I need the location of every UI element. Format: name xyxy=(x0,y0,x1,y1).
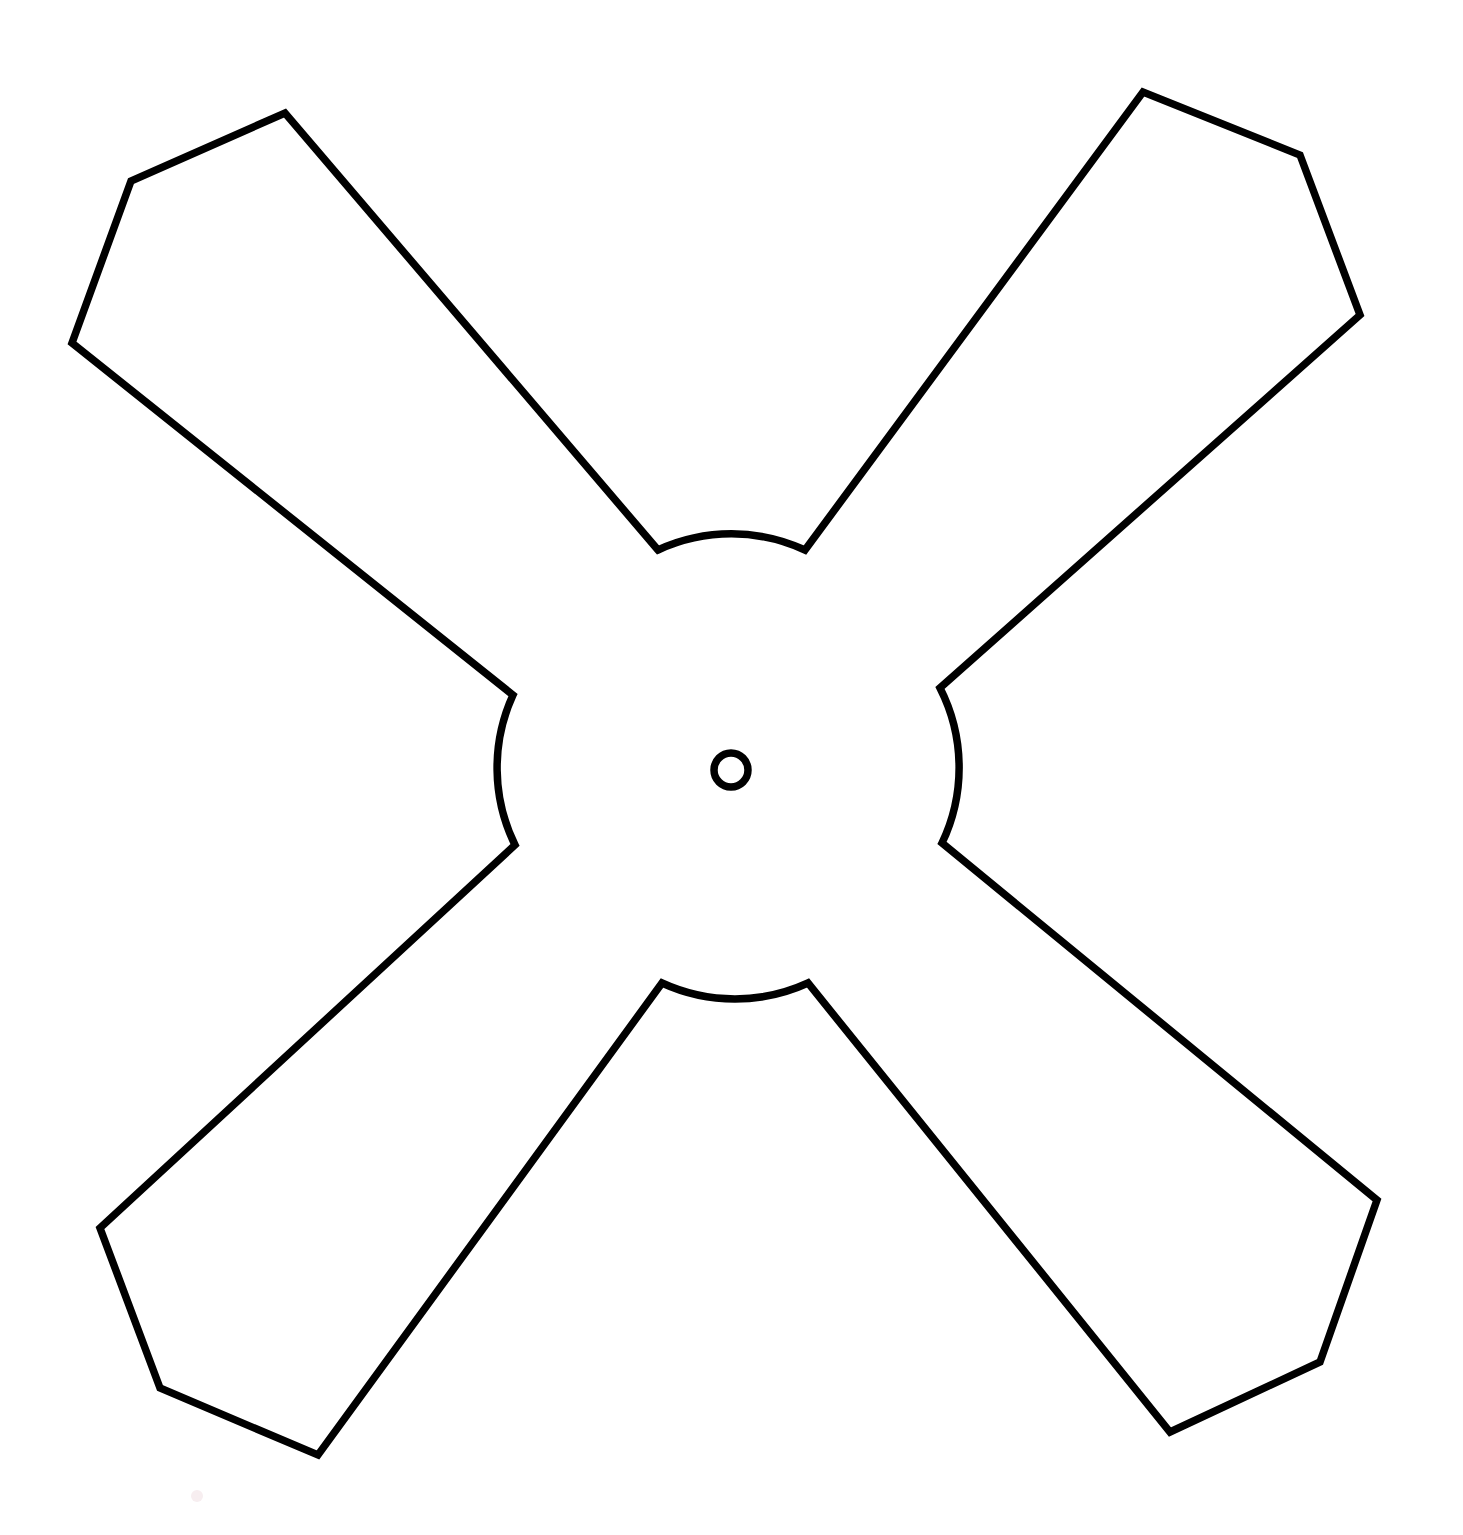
propeller-outline-drawing xyxy=(0,0,1463,1535)
figure-canvas xyxy=(0,0,1463,1535)
paper-speck xyxy=(191,1490,203,1502)
center-mounting-hole-icon xyxy=(714,753,748,787)
